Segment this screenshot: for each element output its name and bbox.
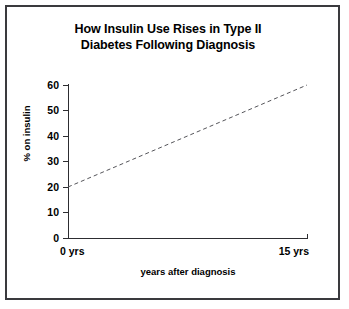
x-axis-end-tick	[307, 234, 308, 239]
y-tick-label-30: 30	[33, 155, 59, 167]
trend-line-path	[68, 85, 307, 187]
y-tick-mark-0	[63, 238, 68, 239]
chart-title-line-1: How Insulin Use Rises in Type II	[24, 22, 312, 38]
y-tick-label-50: 50	[33, 104, 59, 116]
x-axis-title: years after diagnosis	[68, 266, 308, 277]
series-insulin-dashed-line	[68, 85, 307, 238]
x-tick-label-start: 0 yrs	[60, 245, 85, 257]
y-tick-label-40: 40	[33, 130, 59, 142]
y-tick-label-0: 0	[33, 232, 59, 244]
x-axis-line	[68, 238, 308, 239]
chart-figure: How Insulin Use Rises in Type II Diabete…	[0, 0, 349, 309]
y-tick-label-60: 60	[33, 79, 59, 91]
y-tick-label-20: 20	[33, 181, 59, 193]
y-axis-title: % on insulin	[21, 94, 32, 174]
chart-title: How Insulin Use Rises in Type II Diabete…	[24, 22, 312, 53]
x-tick-label-end: 15 yrs	[275, 245, 309, 257]
y-tick-label-10: 10	[33, 206, 59, 218]
chart-title-line-2: Diabetes Following Diagnosis	[24, 38, 312, 54]
plot-area	[68, 85, 307, 238]
